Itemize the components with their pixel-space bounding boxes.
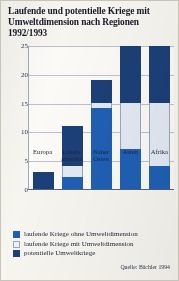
y-tick-label: 10 — [6, 128, 28, 136]
legend-swatch — [13, 250, 20, 257]
bar-column — [33, 46, 54, 189]
source-note: Quelle: Bächler 1994 — [120, 264, 170, 270]
y-tick-label: 5 — [6, 157, 28, 165]
bar-column — [62, 46, 83, 189]
legend-item[interactable]: laufende Kriege mit Umweltdimension — [13, 240, 173, 248]
bar-segment — [149, 103, 170, 166]
bar-group — [29, 46, 174, 189]
chart-figure: Laufende und potentielle Kriege mit Umwe… — [0, 0, 179, 281]
legend-item[interactable]: laufende Kriege ohne Umweltdimension — [13, 230, 173, 238]
y-tick-label: 25 — [6, 42, 28, 50]
x-tick-label: Europa — [28, 148, 58, 155]
bar-segment — [120, 46, 141, 103]
legend-label: laufende Kriege ohne Umweltdimension — [24, 230, 138, 238]
legend-label: laufende Kriege mit Umweltdimension — [24, 240, 133, 248]
bar-segment — [149, 46, 170, 103]
bar-segment — [120, 103, 141, 149]
bar-segment — [62, 166, 83, 178]
bar-column — [91, 46, 112, 189]
legend-swatch — [13, 241, 20, 248]
bar-segment — [62, 177, 83, 189]
x-tick-label: Latein-amerika — [57, 148, 87, 163]
chart-title: Laufende und potentielle Kriege mit Umwe… — [8, 6, 174, 40]
bar-segment — [149, 166, 170, 189]
bar-segment — [33, 172, 54, 189]
x-tick-label: Asien — [115, 148, 145, 155]
bar-segment — [91, 80, 112, 103]
y-tick-label: 20 — [6, 71, 28, 79]
y-tick-label: 0 — [6, 186, 28, 194]
x-tick-label: NaherOsten — [86, 148, 116, 163]
bar-column — [120, 46, 141, 189]
y-tick-label: 15 — [6, 100, 28, 108]
plot-area — [28, 46, 174, 190]
legend-swatch — [13, 231, 20, 238]
legend-item[interactable]: potentielle Umweltkriege — [13, 249, 173, 257]
x-tick-label: Afrika — [144, 148, 174, 155]
legend-label: potentielle Umweltkriege — [24, 249, 95, 257]
bar-column — [149, 46, 170, 189]
chart-legend: laufende Kriege ohne Umweltdimensionlauf… — [13, 230, 173, 259]
